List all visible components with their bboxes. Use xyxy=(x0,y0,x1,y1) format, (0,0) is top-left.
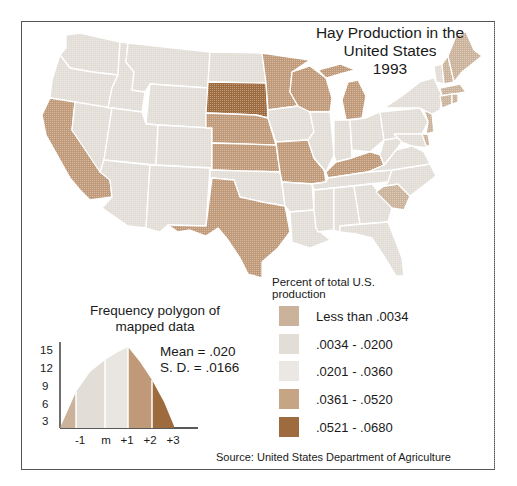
mean-label: Mean = .020 xyxy=(160,344,239,360)
legend-item: Less than .0034 xyxy=(279,305,409,327)
state-michigan xyxy=(342,80,366,120)
legend-item: .0034 - .0200 xyxy=(279,333,393,355)
legend-label: Less than .0034 xyxy=(316,309,409,324)
legend-title-line-1: Percent of total U.S. xyxy=(272,276,375,288)
state-iowa xyxy=(268,106,314,142)
x-tick: +2 xyxy=(143,434,156,446)
freq-title-line-2: mapped data xyxy=(60,319,250,335)
x-tick: +3 xyxy=(166,434,179,446)
x-tick: +1 xyxy=(120,434,133,446)
legend-title-line-2: production xyxy=(272,288,375,300)
state-florida xyxy=(340,222,404,276)
legend-swatch xyxy=(279,306,299,326)
legend-item: .0201 - .0360 xyxy=(279,360,393,382)
state-rhode-island xyxy=(452,94,458,104)
state-north-dakota xyxy=(208,52,266,83)
state-kansas xyxy=(212,143,280,172)
x-tick: -1 xyxy=(75,434,85,446)
state-arkansas xyxy=(282,182,314,212)
legend-item: .0361 - .0520 xyxy=(279,388,393,410)
state-new-york xyxy=(384,78,442,114)
frequency-stats: Mean = .020 S. D. = .0166 xyxy=(160,344,239,376)
legend-swatch xyxy=(279,389,299,409)
legend-swatch xyxy=(279,417,299,437)
freq-title-line-1: Frequency polygon of xyxy=(60,303,250,319)
y-tick: 15 xyxy=(40,344,54,356)
legend-label: .0034 - .0200 xyxy=(316,337,393,352)
legend-label: .0361 - .0520 xyxy=(316,392,393,407)
sd-label: S. D. = .0166 xyxy=(160,360,239,376)
state-new-mexico xyxy=(146,165,210,232)
state-mississippi xyxy=(314,188,334,232)
state-wyoming xyxy=(146,84,208,128)
x-tick: m xyxy=(101,434,111,446)
state-nebraska xyxy=(206,113,276,145)
legend-item: .0521 - .0680 xyxy=(279,416,393,438)
legend-swatch xyxy=(279,361,299,381)
legend-swatch xyxy=(279,334,299,354)
legend-title: Percent of total U.S. production xyxy=(272,276,375,300)
source-note: Source: United States Department of Agri… xyxy=(216,451,451,463)
legend-label: .0201 - .0360 xyxy=(316,364,393,379)
title-line-1: Hay Production in the xyxy=(290,24,490,42)
map-title: Hay Production in the United States 1993 xyxy=(290,24,490,78)
state-colorado xyxy=(156,125,212,168)
title-year: 1993 xyxy=(290,60,490,78)
y-tick: 6 xyxy=(42,398,56,410)
title-line-2: United States xyxy=(290,42,490,60)
state-south-dakota xyxy=(206,82,268,118)
y-tick: 12 xyxy=(40,362,54,374)
y-tick: 3 xyxy=(42,415,56,427)
y-tick: 9 xyxy=(42,380,56,392)
legend-label: .0521 - .0680 xyxy=(316,420,393,435)
state-connecticut xyxy=(440,94,452,108)
state-indiana xyxy=(334,120,352,162)
frequency-polygon-title: Frequency polygon of mapped data xyxy=(60,303,250,335)
